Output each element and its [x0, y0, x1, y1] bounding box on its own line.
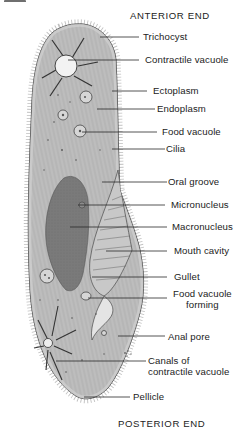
- label-mouth-cavity: Mouth cavity: [174, 245, 229, 256]
- label-canals-line1: Canals of: [148, 355, 229, 366]
- label-micronucleus: Micronucleus: [171, 199, 229, 210]
- label-ectoplasm: Ectoplasm: [153, 85, 199, 96]
- label-food-vacuole-forming-line1: Food vacuole: [173, 288, 232, 299]
- label-trichocyst: Trichocyst: [143, 31, 187, 42]
- label-anal-pore: Anal pore: [168, 331, 210, 342]
- label-contractile-vacuole: Contractile vacuole: [145, 54, 229, 65]
- label-macronucleus: Macronucleus: [172, 221, 233, 232]
- anterior-end-label: ANTERIOR END: [130, 10, 210, 21]
- label-gullet: Gullet: [174, 271, 200, 282]
- label-oral-groove: Oral groove: [168, 176, 219, 187]
- label-endoplasm: Endoplasm: [157, 103, 206, 114]
- label-cilia: Cilia: [166, 143, 185, 154]
- label-food-vacuole-forming: Food vacuole forming: [173, 288, 232, 310]
- posterior-end-label: POSTERIOR END: [118, 418, 205, 429]
- label-pellicle: Pellicle: [133, 391, 164, 402]
- label-canals-line2: contractile vacuole: [148, 366, 229, 377]
- label-canals-of-contractile-vacuole: Canals of contractile vacuole: [148, 355, 229, 377]
- label-food-vacuole: Food vacuole: [162, 126, 221, 137]
- label-food-vacuole-forming-line2: forming: [173, 299, 232, 310]
